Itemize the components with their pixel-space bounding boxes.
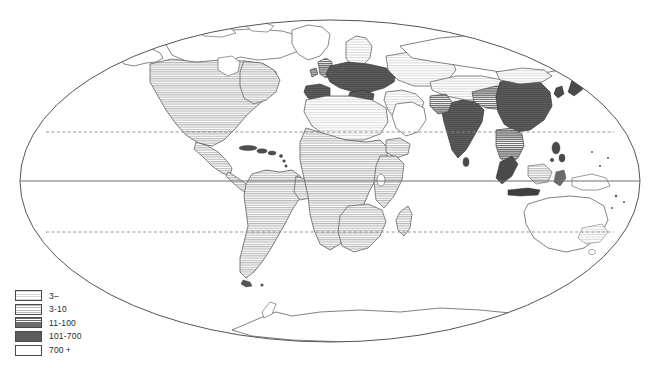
legend-item-label: 101-700	[49, 332, 82, 341]
legend-item-label: 3–	[49, 292, 59, 301]
legend-item[interactable]: 11-100	[15, 316, 125, 330]
legend-swatch-icon	[15, 317, 42, 328]
legend-swatch-icon	[15, 304, 42, 315]
legend-item[interactable]: 3-10	[15, 303, 125, 317]
legend-item-label: 11-100	[49, 319, 76, 328]
region-new-zealand	[622, 240, 640, 268]
region-kamchatka	[566, 44, 584, 62]
legend: 3– 3-10 11-100 101-700 700 +	[15, 289, 125, 357]
legend-item-label: 3-10	[49, 305, 67, 314]
region-sri-lanka	[463, 158, 469, 167]
region-antarctica-shape	[232, 308, 570, 344]
legend-swatch-icon	[15, 290, 42, 301]
legend-swatch-icon	[15, 331, 42, 342]
legend-item[interactable]: 3–	[15, 289, 125, 303]
lake-victoria	[377, 174, 385, 186]
legend-swatch-icon	[15, 345, 42, 356]
legend-item[interactable]: 101-700	[15, 330, 125, 344]
region-tasmania	[589, 249, 596, 254]
legend-item-label: 700 +	[49, 346, 71, 355]
legend-item[interactable]: 700 +	[15, 343, 125, 357]
region-falklands	[260, 283, 263, 286]
